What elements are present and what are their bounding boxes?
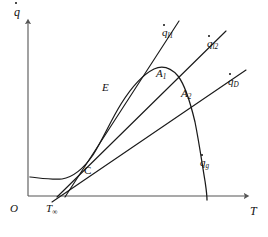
point-label-a1-subscript: 1 — [163, 73, 167, 81]
heat-removal-line-d — [52, 70, 246, 202]
origin-label: O — [10, 203, 18, 214]
point-label-e: E — [102, 82, 109, 93]
curve-label-qd: qD — [228, 76, 239, 89]
y-axis-label-text: q — [14, 6, 20, 18]
point-label-c: C — [84, 165, 91, 176]
point-label-e-text: E — [102, 81, 109, 93]
x-tick-label-tinf: T∞ — [46, 203, 57, 216]
x-tick-label-subscript: ∞ — [52, 208, 57, 216]
point-label-a1-text: A — [156, 67, 163, 79]
curve-label-qg-text: q — [200, 157, 206, 168]
point-label-c-text: C — [84, 164, 91, 176]
point-label-a1: A1 — [156, 68, 166, 81]
point-label-a2-text: A — [181, 87, 188, 99]
x-axis-label: T — [250, 205, 257, 217]
curve-label-ql2-subscript: l2 — [213, 43, 219, 51]
origin-label-text: O — [10, 202, 18, 214]
curve-label-qd-subscript: D — [234, 81, 239, 89]
semenov-diagram-figure: q T O T∞ ql1 ql2 qD qg E C A1 A2 — [0, 0, 268, 237]
curve-label-qd-text: q — [228, 76, 234, 87]
curve-label-ql1: ql1 — [162, 27, 173, 40]
curve-label-ql1-text: q — [162, 27, 168, 38]
curve-label-qg: qg — [200, 157, 209, 170]
heat-removal-line-l2 — [57, 31, 226, 197]
point-label-a2: A2 — [181, 88, 191, 101]
y-axis-label: q — [14, 6, 20, 18]
x-axis-label-text: T — [250, 204, 257, 218]
curve-label-ql2-text: q — [207, 38, 213, 49]
curve-label-ql1-subscript: l1 — [168, 32, 174, 40]
heat-removal-line-l1 — [65, 21, 179, 197]
point-label-a2-subscript: 2 — [188, 93, 192, 101]
curve-label-ql2: ql2 — [207, 38, 218, 51]
curve-label-qg-subscript: g — [206, 162, 210, 170]
diagram-canvas — [0, 0, 268, 237]
